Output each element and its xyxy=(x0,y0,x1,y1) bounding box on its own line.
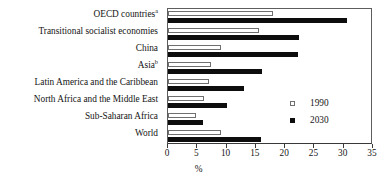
bar-1990 xyxy=(168,79,209,84)
category-label: OECD countriesa xyxy=(0,9,158,19)
bar-1990 xyxy=(168,45,221,50)
bar-1990 xyxy=(168,130,221,135)
category-label-text: Transitional socialist economies xyxy=(39,26,158,36)
x-axis-tick-label: 35 xyxy=(359,148,385,159)
legend-item: 1990 xyxy=(290,97,352,114)
bar-1990 xyxy=(168,113,196,118)
bar-group xyxy=(168,60,371,77)
bar-2030 xyxy=(168,18,347,23)
legend-item: 2030 xyxy=(290,114,352,131)
category-footnote-marker: b xyxy=(155,58,158,65)
category-label-text: Latin America and the Caribbean xyxy=(35,77,158,87)
bar-1990 xyxy=(168,62,211,67)
category-label: Latin America and the Caribbean xyxy=(0,77,158,87)
bar-group xyxy=(168,77,371,94)
bar-chart: OECD countriesaTransitional socialist ec… xyxy=(0,0,391,189)
category-label-text: Sub-Saharan Africa xyxy=(85,111,158,121)
bar-2030 xyxy=(168,69,262,74)
bar-group xyxy=(168,26,371,43)
bar-2030 xyxy=(168,52,298,57)
legend-label: 1990 xyxy=(310,97,329,110)
category-label-text: China xyxy=(136,43,158,53)
category-label-text: World xyxy=(135,128,158,138)
bar-1990 xyxy=(168,28,259,33)
category-label-text: OECD countries xyxy=(93,9,155,19)
category-label: World xyxy=(0,128,158,138)
category-label-text: North Africa and the Middle East xyxy=(34,94,158,104)
bar-1990 xyxy=(168,11,273,16)
category-label: Asiab xyxy=(0,60,158,70)
chart-legend: 19902030 xyxy=(290,97,352,131)
bar-2030 xyxy=(168,103,227,108)
x-axis-tick-label: 25 xyxy=(300,148,326,159)
x-axis-tick-label: 5 xyxy=(183,148,209,159)
bar-2030 xyxy=(168,35,299,40)
x-axis-tick-label: 30 xyxy=(330,148,356,159)
category-axis-labels: OECD countriesaTransitional socialist ec… xyxy=(0,8,162,144)
category-label: Transitional socialist economies xyxy=(0,26,158,36)
x-axis-tick-label: 10 xyxy=(213,148,239,159)
x-axis-tick-label: 15 xyxy=(242,148,268,159)
bar-2030 xyxy=(168,137,261,142)
bar-group xyxy=(168,43,371,60)
legend-swatch-hollow-square xyxy=(290,101,295,106)
category-footnote-marker: a xyxy=(155,7,158,14)
category-label: China xyxy=(0,43,158,53)
bar-1990 xyxy=(168,96,204,101)
legend-swatch-filled-square xyxy=(290,118,295,123)
legend-label: 2030 xyxy=(310,114,329,127)
bar-2030 xyxy=(168,86,244,91)
x-axis-tick-label: 0 xyxy=(154,148,180,159)
x-axis-title-text: % xyxy=(195,164,203,174)
category-label: Sub-Saharan Africa xyxy=(0,111,158,121)
category-label: North Africa and the Middle East xyxy=(0,94,158,104)
bar-2030 xyxy=(168,120,203,125)
category-label-text: Asia xyxy=(138,60,155,70)
x-axis-tick-label: 20 xyxy=(271,148,297,159)
bar-group xyxy=(168,9,371,26)
x-axis-title: % xyxy=(0,164,391,174)
